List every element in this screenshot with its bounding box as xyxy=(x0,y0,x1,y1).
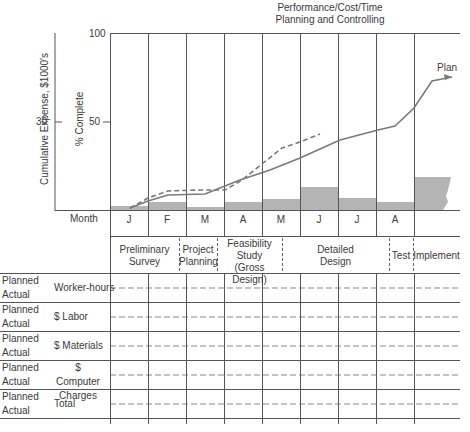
month-may: M xyxy=(262,214,300,226)
row-materials-label: $ Materials xyxy=(54,339,103,353)
phase-implement: Implement xyxy=(413,250,460,262)
row-labor-label: $ Labor xyxy=(54,310,88,324)
table-dashed-rules xyxy=(110,288,460,404)
plan-label: Plan xyxy=(437,62,457,74)
row-materials-planned: Planned xyxy=(2,332,39,346)
row-worker-hours-actual: Actual xyxy=(2,288,30,302)
percent-tick-100: 100 xyxy=(89,28,106,40)
phase-project-planning: ProjectPlanning xyxy=(179,244,217,268)
plan-line xyxy=(130,77,452,208)
phase-preliminary-survey: PreliminarySurvey xyxy=(110,244,179,268)
phase-feasibility-study: FeasibilityStudy(Gross Design) xyxy=(217,238,282,286)
row-labor-planned: Planned xyxy=(2,303,39,317)
month-feb: F xyxy=(148,214,186,226)
table-columns xyxy=(111,273,415,424)
month-mar: M xyxy=(186,214,224,226)
phase-detailed-design: DetailedDesign xyxy=(282,244,389,268)
month-aug: A xyxy=(376,214,414,226)
month-jul: J xyxy=(338,214,376,226)
month-jun: J xyxy=(300,214,338,226)
month-apr: A xyxy=(224,214,262,226)
row-computer-actual: Actual xyxy=(2,375,30,389)
phase-test: Test xyxy=(389,250,413,262)
row-materials-actual: Actual xyxy=(2,346,30,360)
percent-tick-50: 50 xyxy=(89,116,100,128)
plan-arrow-icon xyxy=(444,74,452,80)
row-total-planned: Planned xyxy=(2,390,39,404)
month-jan: J xyxy=(110,214,148,226)
row-computer-planned: Planned xyxy=(2,361,39,375)
month-label: Month xyxy=(70,213,98,225)
percent-axis-label: % Complete xyxy=(74,79,86,159)
expense-tick-30: 30 xyxy=(36,116,47,128)
row-total-actual: Actual xyxy=(2,404,30,418)
row-labor-actual: Actual xyxy=(2,317,30,331)
row-worker-hours-planned: Planned xyxy=(2,274,39,288)
row-worker-hours-label: Worker-hours xyxy=(54,281,114,295)
row-total-label: Total xyxy=(54,397,75,411)
